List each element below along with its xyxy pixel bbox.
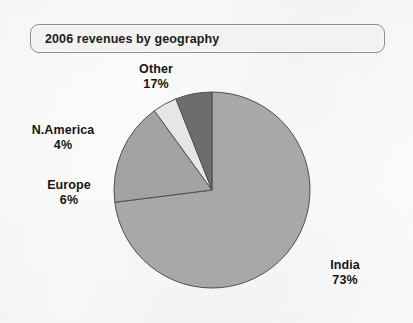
pie-label-india-name: India: [330, 258, 360, 272]
pie-label-namerica: N.America 4%: [10, 123, 116, 154]
pie-label-other-value: 17%: [118, 77, 194, 92]
pie-label-india-value: 73%: [310, 273, 380, 288]
pie-label-other: Other 17%: [118, 62, 194, 93]
pie-label-other-name: Other: [139, 62, 173, 76]
pie-label-europe-name: Europe: [47, 178, 91, 192]
pie-label-namerica-name: N.America: [32, 123, 95, 137]
pie-label-europe-value: 6%: [22, 193, 116, 208]
pie-label-namerica-value: 4%: [10, 138, 116, 153]
pie-label-europe: Europe 6%: [22, 178, 116, 209]
pie-label-india: India 73%: [310, 258, 380, 289]
pie-chart-plot-area: Other 17% N.America 4% Europe 6% India 7…: [0, 0, 413, 323]
